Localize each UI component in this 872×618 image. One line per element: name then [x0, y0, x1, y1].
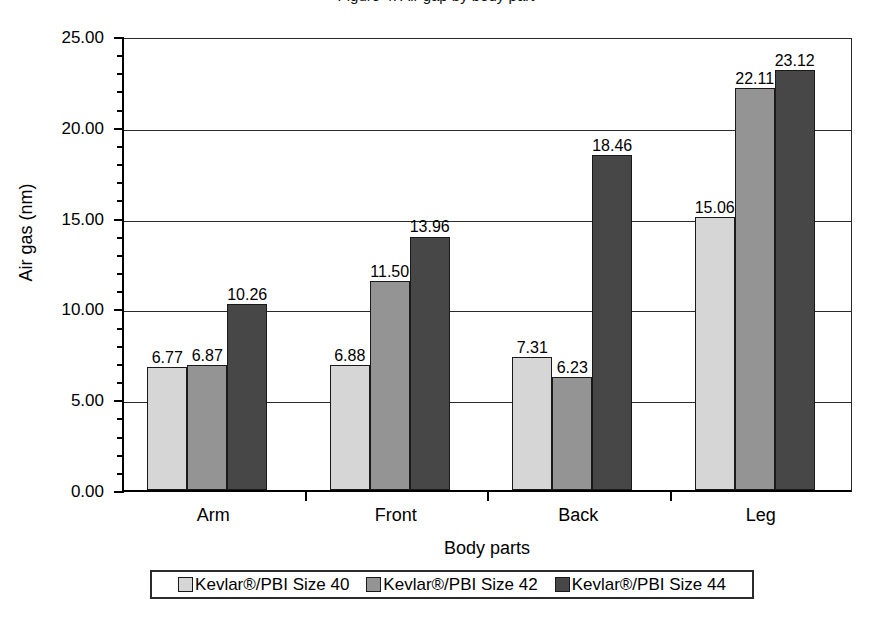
y-axis-minor-tick	[117, 91, 123, 93]
y-axis-minor-tick	[117, 73, 123, 75]
y-axis-minor-tick	[117, 110, 123, 112]
y-axis-minor-tick	[117, 382, 123, 384]
y-axis-minor-tick	[117, 146, 123, 148]
y-axis-minor-tick	[117, 328, 123, 330]
y-axis-minor-tick	[117, 291, 123, 293]
bar-value-label: 6.88	[322, 348, 378, 364]
y-axis-major-tick	[114, 128, 124, 130]
bar[interactable]	[370, 281, 410, 490]
x-axis-category-label: Front	[305, 505, 488, 526]
legend-item-label: Kevlar®/PBI Size 44	[572, 576, 726, 593]
y-axis-tick-label: 25.00	[0, 29, 104, 46]
y-axis-minor-tick	[117, 455, 123, 457]
bar[interactable]	[227, 304, 267, 490]
y-axis-tick-label: 20.00	[0, 120, 104, 137]
bar-group	[512, 36, 632, 490]
y-axis-major-tick	[114, 219, 124, 221]
light-gray-swatch	[178, 577, 193, 592]
y-axis-minor-tick	[117, 346, 123, 348]
bar[interactable]	[552, 377, 592, 490]
bar-value-label: 11.50	[362, 264, 418, 280]
bar-value-label: 23.12	[767, 53, 823, 69]
y-axis-minor-tick	[117, 237, 123, 239]
bar-value-label: 7.31	[504, 340, 560, 356]
y-axis-tick-label: 0.00	[0, 483, 104, 500]
y-axis-minor-tick	[117, 200, 123, 202]
bar-chart: 0.005.0010.0015.0020.0025.00 Air gas (nm…	[0, 0, 872, 618]
bar-value-label: 18.46	[584, 138, 640, 154]
y-axis-minor-tick	[117, 418, 123, 420]
y-axis-title: Air gas (nm)	[16, 143, 37, 323]
bar[interactable]	[775, 70, 815, 490]
bar-value-label: 10.26	[219, 287, 275, 303]
dark-gray-swatch	[555, 577, 570, 592]
chart-legend: Kevlar®/PBI Size 40Kevlar®/PBI Size 42Ke…	[150, 570, 754, 599]
bar[interactable]	[187, 365, 227, 490]
legend-item[interactable]: Kevlar®/PBI Size 42	[366, 576, 537, 593]
y-axis-major-tick	[114, 400, 124, 402]
y-axis-minor-tick	[117, 182, 123, 184]
y-axis-minor-tick	[117, 437, 123, 439]
bar[interactable]	[695, 217, 735, 490]
bar-group	[147, 36, 267, 490]
plot-area: 6.776.8710.266.8811.5013.967.316.2318.46…	[122, 38, 852, 492]
x-axis-category-label: Arm	[122, 505, 305, 526]
y-axis-minor-tick	[117, 164, 123, 166]
bar-value-label: 13.96	[402, 219, 458, 235]
y-axis-minor-tick	[117, 473, 123, 475]
y-axis-tick-label: 5.00	[0, 392, 104, 409]
bar[interactable]	[592, 155, 632, 490]
bar-value-label: 15.06	[687, 200, 743, 216]
y-axis-major-tick	[114, 37, 124, 39]
y-axis-minor-tick	[117, 255, 123, 257]
bar-group	[695, 36, 815, 490]
legend-item[interactable]: Kevlar®/PBI Size 40	[178, 576, 349, 593]
y-axis-major-tick	[114, 309, 124, 311]
bar[interactable]	[147, 367, 187, 490]
x-axis-category-label: Leg	[670, 505, 853, 526]
bar-value-label: 22.11	[727, 71, 783, 87]
y-axis-minor-tick	[117, 273, 123, 275]
x-axis-tick	[670, 492, 672, 501]
bar[interactable]	[330, 365, 370, 490]
x-axis-title: Body parts	[122, 538, 852, 559]
bar[interactable]	[512, 357, 552, 490]
x-axis-tick	[487, 492, 489, 501]
legend-item-label: Kevlar®/PBI Size 42	[383, 576, 537, 593]
x-axis-tick	[305, 492, 307, 501]
bar-value-label: 6.87	[179, 348, 235, 364]
y-axis-minor-tick	[117, 364, 123, 366]
legend-item[interactable]: Kevlar®/PBI Size 44	[555, 576, 726, 593]
x-axis-category-label: Back	[487, 505, 670, 526]
y-axis-minor-tick	[117, 55, 123, 57]
legend-item-label: Kevlar®/PBI Size 40	[195, 576, 349, 593]
bar[interactable]	[735, 88, 775, 490]
medium-gray-swatch	[366, 577, 381, 592]
y-axis-major-tick	[114, 491, 124, 493]
bar-value-label: 6.23	[544, 360, 600, 376]
